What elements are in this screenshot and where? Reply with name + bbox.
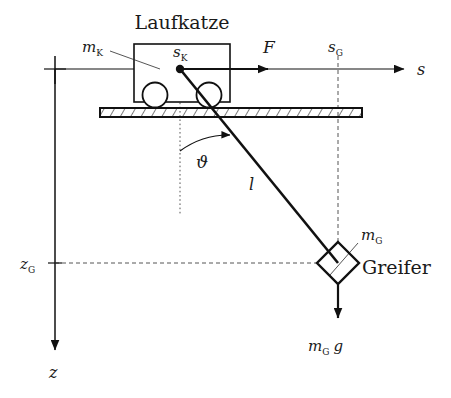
pivot-point (176, 65, 184, 73)
trolley-mass-label: mK (82, 38, 103, 58)
z-axis-label: z (48, 363, 58, 382)
grab-diamond (317, 242, 359, 284)
angle-arc (180, 135, 230, 151)
weight-force-symbol: m (308, 337, 322, 355)
force-label: F (262, 37, 276, 57)
trolley-title-label: Laufkatze (135, 11, 230, 33)
weight-force-subscript: G (322, 347, 329, 357)
rail-beam (100, 108, 362, 117)
crane-schematic-figure: Laufkatze mK sK F sG s ϑ l zG z mG Greif… (0, 0, 451, 398)
grab-position-label: sG (328, 38, 343, 58)
grab-height-label: zG (19, 255, 35, 275)
trolley-wheel-left (143, 83, 168, 108)
schematic-canvas: Laufkatze mK sK F sG s ϑ l zG z mG Greif… (0, 0, 451, 398)
grab-height-subscript: G (28, 265, 35, 275)
grab-height-symbol: z (19, 255, 28, 273)
trolley-position-subscript: K (181, 53, 188, 63)
weight-force-gravity-symbol: g (333, 337, 343, 355)
grab-position-subscript: G (336, 48, 343, 58)
trolley-mass-subscript: K (96, 48, 103, 58)
grab-group (317, 242, 359, 318)
trolley-group (110, 44, 230, 108)
grab-mass-label: mG (361, 226, 382, 246)
rope-length-label: l (249, 175, 254, 194)
grab-mass-symbol: m (361, 226, 375, 244)
trolley-mass-symbol: m (82, 38, 96, 56)
grab-name-label: Greifer (362, 256, 432, 278)
angle-label: ϑ (196, 152, 208, 172)
grab-mass-subscript: G (375, 236, 382, 246)
s-axis-label: s (417, 60, 425, 79)
rail-hatch-fill (100, 108, 362, 117)
weight-force-label: mGg (308, 337, 343, 357)
